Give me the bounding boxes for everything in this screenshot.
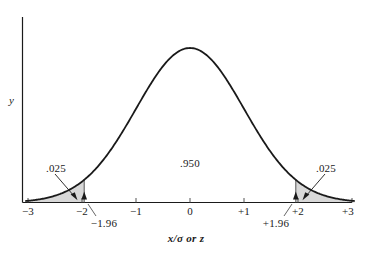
x-tick-label-minus-3: −3	[22, 206, 34, 217]
left-tail-area-label: .025	[46, 163, 66, 174]
x-axis-caption: x/σ or z	[168, 233, 204, 244]
normal-curve	[25, 48, 354, 201]
central-area-label: .950	[180, 158, 200, 169]
x-tick-label-plus-2: +2	[292, 206, 304, 217]
right-critical-value-label: +1.96	[263, 218, 289, 229]
left-critical-label-leader	[88, 204, 96, 216]
right-tail-shaded-region	[296, 180, 355, 203]
normal-distribution-figure: y −3 −2 −1 0 +1 +2 +3 −1.96 +1.96 .025 .…	[0, 0, 368, 257]
x-tick-label-plus-1: +1	[238, 206, 250, 217]
x-tick-label-minus-2: −2	[76, 206, 88, 217]
distribution-plot	[0, 0, 368, 257]
x-tick-label-zero: 0	[187, 206, 193, 217]
left-critical-value-label: −1.96	[91, 218, 117, 229]
right-critical-label-leader	[284, 204, 292, 216]
y-axis-label: y	[9, 95, 14, 106]
x-tick-label-plus-3: +3	[342, 206, 354, 217]
right-tail-area-label: .025	[316, 163, 336, 174]
left-tail-shaded-region	[25, 180, 84, 203]
x-tick-label-minus-1: −1	[130, 206, 142, 217]
